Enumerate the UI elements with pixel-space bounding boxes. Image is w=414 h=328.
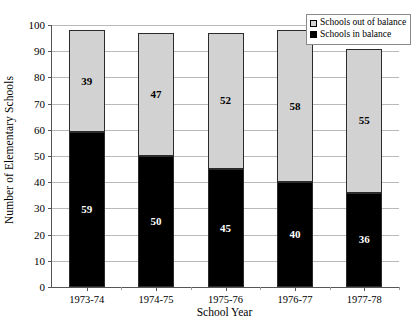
x-axis-minor-tick-mark (399, 287, 400, 290)
legend-label-out-of-balance: Schools out of balance (320, 18, 406, 28)
bar-value-label: 36 (359, 234, 370, 245)
y-axis-tick-label: 0 (40, 281, 46, 293)
bar-value-label: 39 (81, 76, 92, 87)
bar-value-label: 40 (289, 229, 300, 240)
y-axis-tick-mark (48, 287, 52, 288)
x-axis-tick-mark (226, 287, 227, 291)
y-axis-tick-mark (48, 77, 52, 78)
y-axis-title: Number of Elementary Schools (0, 0, 18, 300)
bar-segment-out-of-balance[interactable]: 55 (346, 49, 382, 193)
x-axis-tick-label: 1975-76 (208, 294, 243, 305)
y-axis-tick-mark (48, 51, 52, 52)
x-axis-tick-label: 1976-77 (277, 294, 312, 305)
bar-segment-in-balance[interactable]: 50 (138, 156, 174, 287)
legend-label-in-balance: Schools in balance (320, 30, 391, 40)
stacked-bar-chart: Number of Elementary Schools 01020304050… (0, 0, 414, 328)
legend-item-in-balance[interactable]: Schools in balance (310, 29, 406, 40)
bar-value-label: 55 (359, 115, 370, 126)
legend-swatch-in-balance-icon (310, 31, 317, 38)
bar-segment-in-balance[interactable]: 59 (69, 132, 105, 287)
x-axis-tick-mark (364, 287, 365, 291)
y-axis-tick-label: 30 (34, 202, 45, 214)
y-axis-tick-mark (48, 156, 52, 157)
bar-group[interactable]: 4058 (277, 25, 313, 287)
bar-group[interactable]: 3655 (346, 25, 382, 287)
y-axis-tick-label: 40 (34, 176, 45, 188)
bar-group[interactable]: 5939 (69, 25, 105, 287)
x-axis-tick-label: 1973-74 (69, 294, 104, 305)
y-axis-tick-mark (48, 235, 52, 236)
x-axis-minor-tick-mark (121, 287, 122, 290)
x-axis-tick-mark (295, 287, 296, 291)
bar-value-label: 45 (220, 223, 231, 234)
bar-segment-in-balance[interactable]: 40 (277, 182, 313, 287)
y-axis-tick-label: 60 (34, 124, 45, 136)
y-axis-tick-label: 10 (34, 255, 45, 267)
x-axis-tick-mark (87, 287, 88, 291)
y-axis-tick-mark (48, 25, 52, 26)
bar-segment-in-balance[interactable]: 45 (208, 169, 244, 287)
y-axis-tick-label: 100 (29, 19, 46, 31)
x-axis-tick-mark (156, 287, 157, 291)
y-axis-tick-mark (48, 130, 52, 131)
bar-segment-out-of-balance[interactable]: 58 (277, 30, 313, 182)
bar-value-label: 50 (151, 216, 162, 227)
bar-value-label: 58 (289, 101, 300, 112)
bar-segment-out-of-balance[interactable]: 39 (69, 30, 105, 132)
bar-group[interactable]: 5047 (138, 25, 174, 287)
y-axis-tick-mark (48, 261, 52, 262)
x-axis-tick-label: 1977-78 (347, 294, 382, 305)
y-axis-tick-label: 20 (34, 229, 45, 241)
bar-segment-in-balance[interactable]: 36 (346, 193, 382, 287)
y-axis-title-label: Number of Elementary Schools (3, 76, 15, 224)
bar-segment-out-of-balance[interactable]: 47 (138, 33, 174, 156)
y-axis-tick-label: 50 (34, 150, 45, 162)
legend-item-out-of-balance[interactable]: Schools out of balance (310, 18, 406, 29)
chart-legend: Schools out of balance Schools in balanc… (306, 14, 411, 45)
x-axis-minor-tick-mark (260, 287, 261, 290)
x-axis-tick-label: 1974-75 (139, 294, 174, 305)
x-axis-title: School Year (51, 306, 398, 318)
y-axis-tick-mark (48, 182, 52, 183)
y-axis-tick-mark (48, 104, 52, 105)
x-axis-minor-tick-mark (191, 287, 192, 290)
bar-value-label: 47 (151, 89, 162, 100)
y-axis-tick-label: 70 (34, 98, 45, 110)
bar-segment-out-of-balance[interactable]: 52 (208, 33, 244, 169)
x-axis-minor-tick-mark (330, 287, 331, 290)
bar-value-label: 52 (220, 95, 231, 106)
y-axis-tick-mark (48, 208, 52, 209)
y-axis-tick-label: 80 (34, 71, 45, 83)
bar-value-label: 59 (81, 204, 92, 215)
plot-area: 010203040506070809010059391973-745047197… (51, 25, 399, 288)
bar-group[interactable]: 4552 (208, 25, 244, 287)
y-axis-tick-label: 90 (34, 45, 45, 57)
x-axis-title-label: School Year (197, 306, 253, 318)
legend-swatch-out-of-balance-icon (310, 20, 317, 27)
